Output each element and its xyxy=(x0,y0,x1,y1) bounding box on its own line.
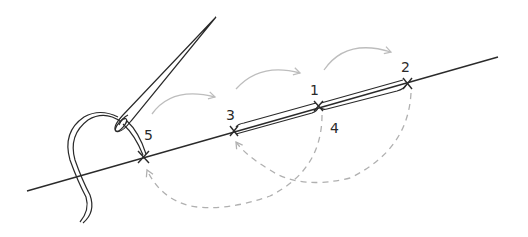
label-2: 2 xyxy=(401,59,410,75)
needle-icon xyxy=(114,17,216,133)
label-5: 5 xyxy=(144,127,153,143)
arrow-forward-1 xyxy=(152,94,215,114)
stitch-3-to-1 xyxy=(236,103,318,134)
arrow-forward-2 xyxy=(236,70,300,89)
x-mark-1 xyxy=(314,101,323,111)
backstitch-diagram: 5 3 1 2 4 xyxy=(0,0,528,237)
arrow-back-1-to-5 xyxy=(147,115,322,208)
label-3: 3 xyxy=(226,107,235,123)
fabric-line xyxy=(27,57,498,191)
label-4: 4 xyxy=(330,120,339,136)
label-1: 1 xyxy=(310,82,319,98)
arrow-forward-3 xyxy=(324,48,391,70)
